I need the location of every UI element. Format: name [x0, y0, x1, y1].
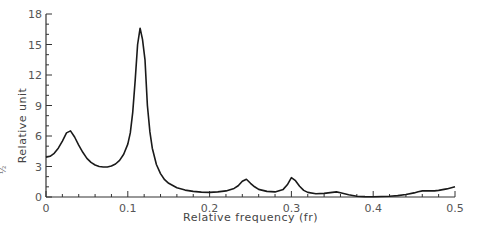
y-tick-label: 12	[28, 69, 42, 82]
y-tick-label: 9	[35, 100, 42, 113]
x-tick-label: 0.5	[446, 202, 464, 215]
x-tick-label: 0.3	[283, 202, 301, 215]
tick-labels: 036912151800.10.20.30.40.5	[28, 8, 464, 215]
y-tick-label: 3	[35, 161, 42, 174]
spectrum-line	[46, 28, 455, 197]
y-tick-label: 6	[35, 130, 42, 143]
x-tick-label: 0.4	[364, 202, 382, 215]
y-tick-label: 0	[35, 191, 42, 204]
y-tick-label: 18	[28, 8, 42, 21]
y-axis-label: Relative unit	[16, 87, 29, 163]
spectrum-chart: ½ Relative unit Relative frequency (fr) …	[0, 0, 479, 232]
tick-marks	[46, 14, 455, 197]
x-tick-label: 0.1	[119, 202, 137, 215]
axes	[46, 14, 455, 197]
side-label: ½	[0, 165, 8, 174]
y-axis-title: Relative unit	[16, 87, 29, 163]
x-tick-label: 0	[43, 202, 50, 215]
y-tick-label: 15	[28, 39, 42, 52]
data-series	[46, 28, 455, 197]
x-tick-label: 0.2	[201, 202, 219, 215]
cropped-side-label: ½	[0, 165, 8, 174]
